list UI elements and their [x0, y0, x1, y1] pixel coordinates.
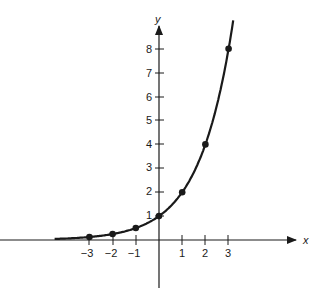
x-tick-label: 2	[202, 247, 208, 259]
y-tick-label: 6	[146, 91, 152, 103]
x-tick-label: 3	[225, 247, 231, 259]
data-point	[156, 213, 163, 220]
data-point	[86, 234, 93, 241]
y-tick-label: 2	[146, 185, 152, 197]
data-point	[179, 189, 186, 196]
data-point	[133, 225, 140, 232]
data-point	[225, 46, 232, 53]
x-tick-labels: −3 −2 −1 1 2 3	[81, 247, 231, 259]
data-point	[202, 141, 209, 148]
data-point	[109, 231, 116, 238]
x-tick-label: −3	[81, 247, 94, 259]
y-axis-label: y	[154, 13, 162, 25]
x-tick-label: −2	[105, 247, 118, 259]
y-tick-label: 5	[146, 114, 152, 126]
y-tick-label: 7	[146, 67, 152, 79]
x-axis-label: x	[302, 234, 309, 246]
x-tick-label: −1	[128, 247, 141, 259]
exponential-curve	[55, 20, 234, 239]
y-tick-label: 3	[146, 161, 152, 173]
exponential-graph: x y −3 −2 −1 1 2 3	[0, 0, 324, 306]
y-tick-label: 8	[146, 43, 152, 55]
y-tick-label: 1	[146, 209, 152, 221]
y-tick-labels: 1 2 3 4 5 6 7 8	[146, 43, 152, 221]
x-tick-label: 1	[179, 247, 185, 259]
chart-container: x y −3 −2 −1 1 2 3	[0, 0, 324, 306]
y-tick-label: 4	[146, 138, 152, 150]
